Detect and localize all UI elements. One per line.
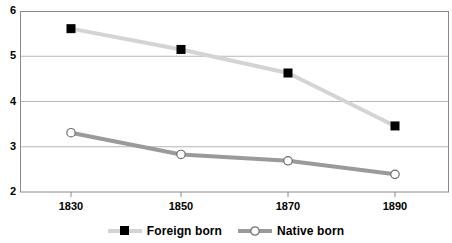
x-axis-tick-label-1850: 1850 xyxy=(151,200,211,212)
x-axis-tick-label-1870: 1870 xyxy=(258,200,318,212)
legend-swatch-foreign-born xyxy=(108,225,142,237)
data-point xyxy=(67,24,76,33)
data-point xyxy=(284,157,292,165)
data-point xyxy=(391,170,399,178)
data-point xyxy=(177,45,186,54)
x-axis-tick-label-1890: 1890 xyxy=(365,200,425,212)
data-point xyxy=(284,68,293,77)
x-axis-tick-label-1830: 1830 xyxy=(41,200,101,212)
legend-label: Native born xyxy=(277,224,344,238)
data-point xyxy=(177,150,185,158)
data-point xyxy=(67,129,75,137)
legend-item-native-born[interactable]: Native born xyxy=(238,224,344,238)
line-chart: 6 5 4 3 2 1830 1850 1870 1890 xyxy=(0,0,452,243)
legend-item-foreign-born[interactable]: Foreign born xyxy=(108,224,222,238)
legend-label: Foreign born xyxy=(147,224,222,238)
chart-legend: Foreign born Native born xyxy=(0,224,452,238)
legend-swatch-native-born xyxy=(238,225,272,237)
data-point xyxy=(391,121,400,130)
